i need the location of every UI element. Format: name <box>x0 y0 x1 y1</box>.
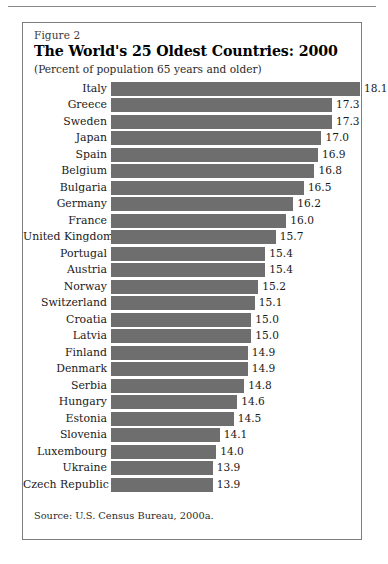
country-label: Czech Republic <box>23 477 107 494</box>
value-label: 16.2 <box>297 196 321 213</box>
value-label: 17.3 <box>336 114 360 131</box>
figure-subtitle: (Percent of population 65 years and olde… <box>34 63 262 75</box>
country-label: Denmark <box>23 361 107 378</box>
value-bar <box>111 478 213 492</box>
chart-row: United Kingdom15.7 <box>23 229 363 246</box>
value-bar <box>111 247 265 261</box>
figure-box: Figure 2 The World's 25 Oldest Countries… <box>22 22 362 540</box>
chart-row: Ukraine13.9 <box>23 460 363 477</box>
value-bar <box>111 82 360 96</box>
figure-number: Figure 2 <box>34 29 80 41</box>
chart-row: Spain16.9 <box>23 147 363 164</box>
value-bar <box>111 98 332 112</box>
chart-row: Sweden17.3 <box>23 114 363 131</box>
chart-row: Japan17.0 <box>23 130 363 147</box>
country-label: Serbia <box>23 378 107 395</box>
chart-row: Bulgaria16.5 <box>23 180 363 197</box>
value-label: 15.0 <box>255 312 279 329</box>
country-label: France <box>23 213 107 230</box>
value-bar <box>111 395 237 409</box>
country-label: Spain <box>23 147 107 164</box>
value-label: 14.5 <box>238 411 262 428</box>
value-label: 15.0 <box>255 328 279 345</box>
figure-title: The World's 25 Oldest Countries: 2000 <box>34 43 338 59</box>
country-label: United Kingdom <box>23 229 107 246</box>
country-label: Greece <box>23 97 107 114</box>
figure-source-note: Source: U.S. Census Bureau, 2000a. <box>34 510 214 521</box>
country-label: Germany <box>23 196 107 213</box>
value-bar <box>111 412 234 426</box>
value-bar <box>111 280 258 294</box>
top-divider-rule <box>8 6 376 7</box>
value-label: 15.4 <box>269 246 293 263</box>
value-label: 16.5 <box>308 180 332 197</box>
value-label: 16.9 <box>322 147 346 164</box>
value-bar <box>111 296 255 310</box>
value-bar <box>111 346 248 360</box>
value-label: 14.6 <box>241 394 265 411</box>
value-bar <box>111 379 244 393</box>
chart-row: Portugal15.4 <box>23 246 363 263</box>
chart-row: Norway15.2 <box>23 279 363 296</box>
value-label: 16.8 <box>318 163 342 180</box>
chart-row: Denmark14.9 <box>23 361 363 378</box>
country-label: Luxembourg <box>23 444 107 461</box>
value-bar <box>111 197 293 211</box>
chart-row: Croatia15.0 <box>23 312 363 329</box>
chart-row: Latvia15.0 <box>23 328 363 345</box>
chart-row: Slovenia14.1 <box>23 427 363 444</box>
country-label: Croatia <box>23 312 107 329</box>
value-bar <box>111 445 216 459</box>
value-label: 13.9 <box>217 477 241 494</box>
value-bar <box>111 329 251 343</box>
country-label: Hungary <box>23 394 107 411</box>
country-label: Belgium <box>23 163 107 180</box>
country-label: Sweden <box>23 114 107 131</box>
value-label: 15.4 <box>269 262 293 279</box>
country-label: Ukraine <box>23 460 107 477</box>
value-bar <box>111 461 213 475</box>
country-label: Portugal <box>23 246 107 263</box>
value-bar <box>111 428 220 442</box>
country-label: Estonia <box>23 411 107 428</box>
chart-row: Austria15.4 <box>23 262 363 279</box>
chart-row: Czech Republic13.9 <box>23 477 363 494</box>
value-label: 14.8 <box>248 378 272 395</box>
chart-row: Greece17.3 <box>23 97 363 114</box>
value-label: 14.9 <box>252 345 276 362</box>
country-label: Austria <box>23 262 107 279</box>
value-bar <box>111 148 318 162</box>
country-label: Norway <box>23 279 107 296</box>
chart-row: Italy18.1 <box>23 81 363 98</box>
value-bar <box>111 313 251 327</box>
value-label: 13.9 <box>217 460 241 477</box>
chart-row: Hungary14.6 <box>23 394 363 411</box>
value-bar <box>111 115 332 129</box>
value-label: 14.0 <box>220 444 244 461</box>
country-label: Switzerland <box>23 295 107 312</box>
country-label: Japan <box>23 130 107 147</box>
bar-chart-plot-area: Italy18.1Greece17.3Sweden17.3Japan17.0Sp… <box>23 81 363 491</box>
country-label: Slovenia <box>23 427 107 444</box>
value-bar <box>111 362 248 376</box>
value-label: 14.1 <box>224 427 248 444</box>
chart-row: Finland14.9 <box>23 345 363 362</box>
chart-row: Switzerland15.1 <box>23 295 363 312</box>
value-bar <box>111 181 304 195</box>
value-label: 15.1 <box>259 295 283 312</box>
value-label: 17.3 <box>336 97 360 114</box>
chart-row: Luxembourg14.0 <box>23 444 363 461</box>
chart-row: Serbia14.8 <box>23 378 363 395</box>
country-label: Latvia <box>23 328 107 345</box>
value-label: 16.0 <box>290 213 314 230</box>
value-bar <box>111 230 276 244</box>
country-label: Finland <box>23 345 107 362</box>
value-label: 15.7 <box>280 229 304 246</box>
country-label: Italy <box>23 81 107 98</box>
country-label: Bulgaria <box>23 180 107 197</box>
value-bar <box>111 214 286 228</box>
value-bar <box>111 131 321 145</box>
value-label: 15.2 <box>262 279 286 296</box>
chart-row: Belgium16.8 <box>23 163 363 180</box>
value-bar <box>111 263 265 277</box>
